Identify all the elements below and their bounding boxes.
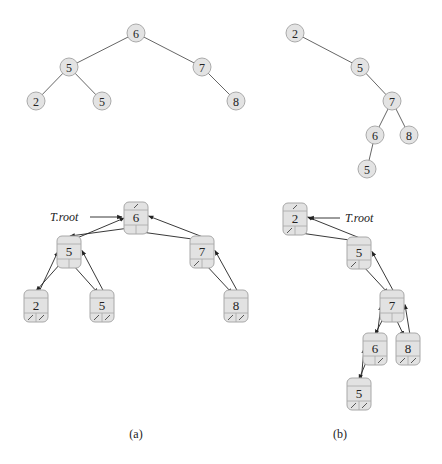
svg-text:5: 5 (99, 95, 105, 109)
linked-node: 8 (396, 333, 420, 365)
tree-node: 5 (60, 58, 78, 76)
linked-node: 6 (124, 202, 148, 234)
svg-text:5: 5 (364, 163, 370, 177)
tree-edge (69, 33, 136, 67)
child-pointer-arrow (206, 265, 232, 293)
svg-text:5: 5 (356, 386, 363, 401)
child-pointer-arrow (36, 263, 61, 291)
child-pointer-arrow (73, 265, 98, 293)
linked-node: 5 (347, 378, 371, 410)
tree-nodes: 657258257685 (27, 24, 418, 178)
svg-text:5: 5 (66, 61, 72, 75)
svg-text:7: 7 (389, 95, 395, 109)
tree-edges (36, 33, 409, 169)
linked-node: 7 (190, 236, 214, 268)
svg-text:7: 7 (389, 298, 396, 313)
svg-text:2: 2 (292, 211, 299, 226)
parent-pointer-arrow (38, 252, 58, 295)
tree-node: 8 (400, 126, 418, 144)
root-label-b: T.root (345, 211, 374, 225)
linked-node: 7 (380, 290, 404, 322)
svg-text:5: 5 (66, 244, 73, 259)
parent-pointer-arrow (82, 250, 104, 291)
parent-pointer-arrow (372, 251, 394, 291)
linked-node: 2 (283, 203, 307, 235)
panel-label-b: (b) (333, 427, 347, 441)
panel-label-a: (a) (129, 427, 142, 441)
linked-node: 5 (90, 290, 114, 322)
svg-text:5: 5 (357, 61, 363, 75)
tree-node: 2 (286, 24, 304, 42)
tree-edge (136, 33, 202, 67)
tree-node: 7 (193, 58, 211, 76)
tree-node: 7 (383, 92, 401, 110)
linked-node: 5 (57, 236, 81, 268)
svg-text:8: 8 (233, 95, 239, 109)
child-pointer-arrow (363, 266, 388, 293)
tree-edge (295, 33, 360, 67)
linked-node: 6 (363, 333, 387, 365)
parent-pointer-arrow (405, 305, 410, 336)
child-pointer-arrow (70, 228, 129, 236)
linked-node: 5 (347, 237, 371, 269)
svg-text:5: 5 (356, 245, 363, 260)
binary-search-tree-figure: 657258257685 657258257685 T.root T.root … (0, 0, 442, 464)
svg-text:6: 6 (372, 341, 379, 356)
svg-text:8: 8 (406, 129, 412, 143)
svg-text:6: 6 (133, 210, 140, 225)
linked-node: 2 (24, 290, 48, 322)
tree-node: 5 (358, 160, 376, 178)
svg-text:6: 6 (133, 27, 139, 41)
tree-node: 5 (93, 92, 111, 110)
linked-nodes: 657258257685 (24, 202, 420, 410)
svg-text:7: 7 (199, 244, 206, 259)
svg-text:8: 8 (405, 341, 412, 356)
linked-node: 8 (224, 290, 248, 322)
tree-node: 6 (366, 126, 384, 144)
root-label-a: T.root (50, 210, 79, 224)
tree-node: 5 (351, 58, 369, 76)
tree-node: 6 (127, 24, 145, 42)
svg-text:2: 2 (292, 27, 298, 41)
svg-text:8: 8 (233, 298, 240, 313)
tree-node: 8 (227, 92, 245, 110)
svg-text:5: 5 (99, 298, 106, 313)
tree-node: 2 (27, 92, 45, 110)
svg-text:7: 7 (199, 61, 205, 75)
svg-text:2: 2 (33, 95, 39, 109)
svg-text:6: 6 (372, 129, 378, 143)
parent-pointer-arrow (215, 250, 238, 291)
svg-text:2: 2 (33, 298, 40, 313)
